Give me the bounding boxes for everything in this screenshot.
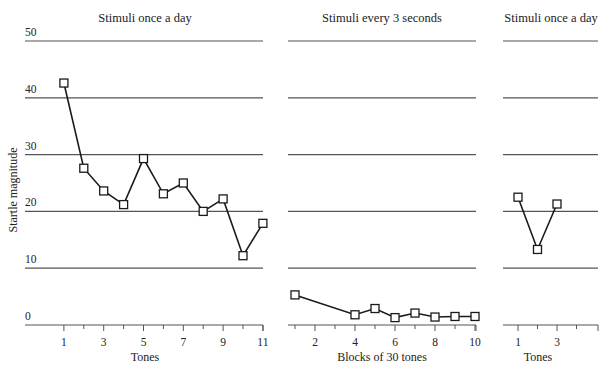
- x-tick-label: 3: [101, 336, 107, 348]
- panel-title: Stimuli every 3 seconds: [322, 11, 442, 25]
- series-line: [295, 295, 475, 318]
- data-point-marker: [219, 195, 227, 203]
- x-tick-label: 3: [554, 336, 560, 348]
- series-line: [64, 83, 263, 256]
- data-point-marker: [351, 311, 359, 319]
- panel-2: Stimuli every 3 seconds246810Blocks of 3…: [288, 11, 481, 364]
- x-tick-label: 7: [180, 336, 186, 348]
- x-tick-label: 6: [392, 336, 398, 348]
- x-tick-label: 9: [220, 336, 226, 348]
- panel-1: Stimuli once a day1357911Tones: [25, 11, 269, 364]
- data-point-marker: [291, 291, 299, 299]
- data-point-marker: [471, 312, 479, 320]
- x-axis-label: Tones: [131, 350, 160, 364]
- data-point-marker: [534, 245, 542, 253]
- panel-title: Stimuli once a day: [98, 11, 192, 25]
- data-point-marker: [451, 312, 459, 320]
- panel-3: Stimuli once a day13Tones: [503, 11, 598, 364]
- data-point-marker: [259, 219, 267, 227]
- x-axis-label: Blocks of 30 tones: [337, 350, 427, 364]
- data-point-marker: [371, 305, 379, 313]
- data-point-marker: [239, 252, 247, 260]
- data-point-marker: [60, 79, 68, 87]
- data-point-marker: [120, 201, 128, 209]
- x-tick-label: 11: [257, 336, 268, 348]
- x-tick-label: 10: [469, 336, 481, 348]
- x-tick-label: 1: [515, 336, 521, 348]
- x-axis-label: Tones: [524, 350, 553, 364]
- x-tick-label: 8: [432, 336, 438, 348]
- y-tick-label: 40: [25, 83, 37, 95]
- data-point-marker: [514, 193, 522, 201]
- data-point-marker: [553, 200, 561, 208]
- y-axis-label: Startle magnitude: [6, 148, 20, 233]
- y-tick-label: 30: [25, 140, 37, 152]
- data-point-marker: [80, 164, 88, 172]
- x-tick-label: 2: [312, 336, 318, 348]
- x-tick-label: 1: [61, 336, 67, 348]
- y-tick-label: 50: [25, 26, 37, 38]
- y-tick-label: 20: [25, 196, 37, 208]
- startle-chart: Stimuli once a day1357911TonesStimuli ev…: [0, 0, 609, 366]
- data-point-marker: [199, 207, 207, 215]
- x-tick-label: 4: [352, 336, 358, 348]
- data-point-marker: [391, 314, 399, 322]
- y-tick-label: 0: [25, 310, 31, 322]
- data-point-marker: [179, 179, 187, 187]
- data-point-marker: [159, 190, 167, 198]
- data-point-marker: [100, 187, 108, 195]
- panel-title: Stimuli once a day: [504, 11, 598, 25]
- data-point-marker: [431, 313, 439, 321]
- data-point-marker: [411, 309, 419, 317]
- x-tick-label: 5: [141, 336, 147, 348]
- series-line: [518, 197, 557, 249]
- y-tick-label: 10: [25, 253, 37, 265]
- data-point-marker: [140, 155, 148, 163]
